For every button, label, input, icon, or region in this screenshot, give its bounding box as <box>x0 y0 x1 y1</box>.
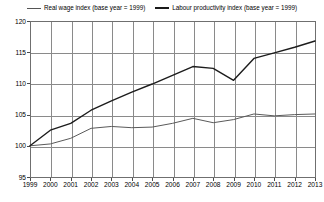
legend-label-real-wage: Real wage index (base year = 1999) <box>44 4 145 12</box>
x-axis-tick-mark <box>213 178 214 181</box>
x-axis-tick-mark <box>234 178 235 181</box>
x-axis-tick-mark <box>193 178 194 181</box>
y-axis-tick-label: 95 <box>0 174 26 181</box>
x-axis-tick-mark <box>50 178 51 181</box>
x-axis-tick-mark <box>173 178 174 181</box>
chart-legend: Real wage index (base year = 1999) Labou… <box>0 0 324 16</box>
legend-item-labour-productivity-index: Labour productivity index (base year = 1… <box>155 4 297 12</box>
x-axis-tick-mark <box>91 178 92 181</box>
x-axis-tick-mark <box>254 178 255 181</box>
x-axis-tick-mark <box>295 178 296 181</box>
y-axis-tick-label: 100 <box>0 142 26 149</box>
x-axis-tick-mark <box>111 178 112 181</box>
y-axis-tick-label: 115 <box>0 49 26 56</box>
x-axis-tick-label: 2013 <box>303 181 324 189</box>
series-layer <box>30 21 316 178</box>
y-axis-tick-label: 120 <box>0 18 26 25</box>
series-line-labour-productivity <box>30 41 315 146</box>
series-line-real-wage <box>30 114 315 146</box>
x-axis-tick-mark <box>71 178 72 181</box>
x-axis-tick-mark <box>132 178 133 181</box>
line-swatch-icon-real-wage <box>27 8 41 9</box>
x-axis-tick-mark <box>30 178 31 181</box>
line-swatch-icon-labour-productivity <box>155 7 169 9</box>
y-axis-tick-label: 110 <box>0 80 26 87</box>
x-axis-tick-mark <box>152 178 153 181</box>
x-axis-tick-mark <box>315 178 316 181</box>
legend-label-labour-productivity: Labour productivity index (base year = 1… <box>172 4 297 12</box>
y-axis-tick-label: 105 <box>0 111 26 118</box>
x-axis-tick-mark <box>274 178 275 181</box>
legend-item-real-wage-index: Real wage index (base year = 1999) <box>27 4 145 12</box>
line-chart: Real wage index (base year = 1999) Labou… <box>0 0 324 202</box>
